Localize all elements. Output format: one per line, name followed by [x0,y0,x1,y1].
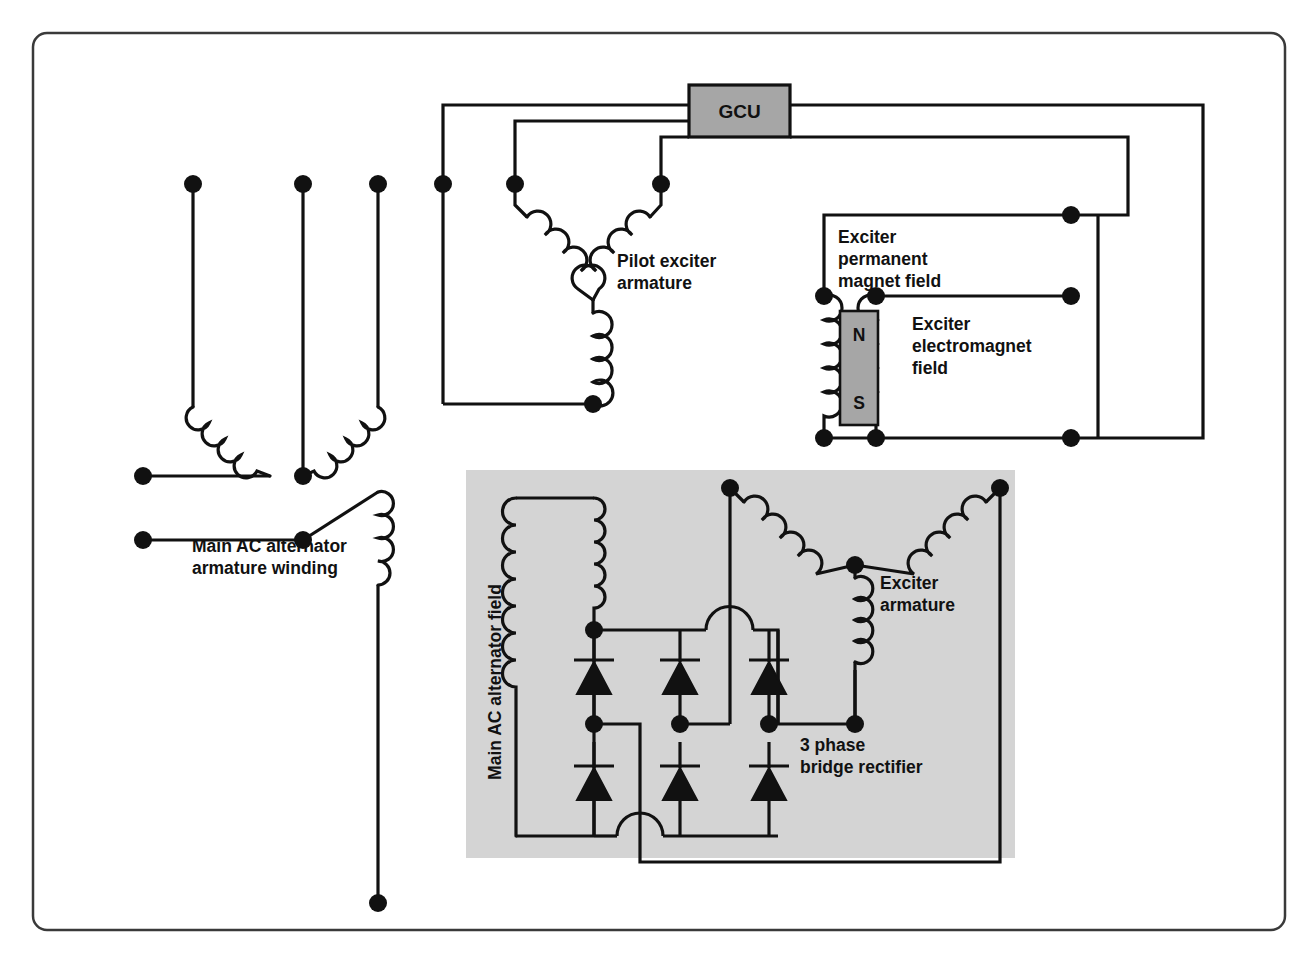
exciter-armature-label-line2: armature [880,595,955,615]
terminal-dot-output-3[interactable] [369,894,387,912]
junction-dot-exciter-top-right [1062,206,1080,224]
junction-dot-em-right [1062,287,1080,305]
pilot-exciter-label-line2: armature [617,273,692,293]
permanent-magnet-bar: N S [840,311,878,425]
magnet-south-label: S [853,393,865,413]
rotating-assembly-panel [466,470,1015,858]
terminal-dot-phase3-top[interactable] [369,175,387,193]
junction-dot-exciter-armature-a [721,479,739,497]
brushless-alternator-schematic: GCU N S [0,0,1310,961]
main-ac-alternator-field-label: Main AC alternator field [485,584,505,780]
terminal-dot-phase2-top[interactable] [294,175,312,193]
junction-dot-pilot-c [652,175,670,193]
bridge-rectifier-label-line1: 3 phase [800,735,865,755]
junction-dot-main-phase2-star [294,467,312,485]
junction-dot-pm-coil-top [815,287,833,305]
diagram-page: GCU N S [0,0,1310,961]
junction-dot-mid-phase3 [760,715,778,733]
magnet-north-label: N [853,325,866,345]
terminal-dot-phase1-top[interactable] [184,175,202,193]
exciter-electromagnet-field-label-line1: Exciter [912,314,971,334]
bridge-rectifier-label-line2: bridge rectifier [800,757,923,777]
junction-dot-exciter-armature-c [991,479,1009,497]
junction-dot-pos-bus-phase1 [585,621,603,639]
junction-dot-pilot-left [434,175,452,193]
exciter-electromagnet-field-label-line2: electromagnet [912,336,1032,356]
gcu-block[interactable]: GCU [689,85,790,137]
exciter-permanent-magnet-field-label-line2: permanent [838,249,928,269]
junction-dot-exciter-armature-star [846,556,864,574]
junction-dot-mid-phase1 [585,715,603,733]
exciter-electromagnet-field-label-line3: field [912,358,948,378]
junction-dot-exciter-armature-tail [846,715,864,733]
main-armature-winding-label-line1: Main AC alternator [192,536,347,556]
junction-dot-exciter-bottom-right [1062,429,1080,447]
junction-dot-mid-phase2 [671,715,689,733]
junction-dot-pilot-a [506,175,524,193]
exciter-permanent-magnet-field-label-line3: magnet field [838,271,941,291]
terminal-dot-output-1[interactable] [134,467,152,485]
terminal-dot-output-2[interactable] [134,531,152,549]
pilot-exciter-label-line1: Pilot exciter [617,251,716,271]
junction-dot-em-coil-bottom [867,429,885,447]
exciter-armature-label-line1: Exciter [880,573,939,593]
main-armature-winding-label-line2: armature winding [192,558,338,578]
gcu-label: GCU [718,101,760,122]
junction-dot-pilot-bottom [584,395,602,413]
exciter-permanent-magnet-field-label-line1: Exciter [838,227,897,247]
junction-dot-pm-coil-bottom [815,429,833,447]
